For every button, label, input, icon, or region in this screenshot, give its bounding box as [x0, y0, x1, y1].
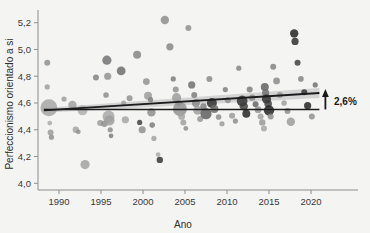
data-point — [139, 126, 146, 133]
data-point — [291, 38, 298, 45]
data-point — [229, 113, 235, 119]
x-tick-label: 1995 — [90, 196, 111, 207]
y-tick-label: 4,6 — [18, 97, 31, 108]
data-point — [49, 135, 54, 140]
data-point — [76, 129, 81, 134]
data-point — [188, 81, 195, 88]
data-point — [148, 97, 153, 102]
data-point — [143, 78, 150, 85]
x-tick-label: 2005 — [174, 196, 195, 207]
x-axis-title: Ano — [174, 219, 192, 230]
y-tick-label: 4,0 — [18, 178, 31, 189]
data-point — [298, 76, 304, 82]
data-point — [157, 157, 163, 163]
x-tick-label: 1990 — [48, 196, 69, 207]
x-tick-label: 2010 — [216, 196, 237, 207]
data-point — [122, 116, 129, 123]
data-point — [216, 114, 222, 120]
data-point — [270, 64, 276, 70]
y-tick-label: 5,2 — [18, 17, 31, 28]
data-point — [103, 92, 109, 98]
data-point — [259, 119, 265, 125]
increase-label: 2,6% — [334, 96, 357, 107]
chart-figure: 4,04,24,44,64,85,05,21990199520002005201… — [0, 0, 370, 233]
data-point — [273, 78, 280, 85]
data-point — [156, 152, 161, 157]
data-point — [313, 82, 318, 87]
x-tick-label: 2015 — [258, 196, 279, 207]
y-tick-label: 4,8 — [18, 71, 31, 82]
data-point — [247, 87, 253, 93]
data-point — [151, 136, 156, 141]
data-point — [261, 125, 267, 131]
data-point — [185, 25, 191, 31]
data-point — [287, 118, 295, 126]
data-point — [166, 43, 173, 50]
data-point — [104, 115, 114, 125]
data-point — [223, 87, 228, 92]
scatter-plot: 4,04,24,44,64,85,05,21990199520002005201… — [0, 0, 370, 233]
data-point — [48, 129, 54, 135]
data-point — [309, 113, 315, 119]
data-point — [178, 113, 185, 120]
x-tick-label: 2020 — [300, 196, 321, 207]
data-point — [127, 95, 133, 101]
data-point — [108, 127, 113, 132]
data-point — [45, 84, 50, 89]
data-point — [93, 75, 99, 81]
y-tick-label: 4,4 — [18, 124, 31, 135]
data-point — [290, 29, 298, 37]
data-point — [104, 73, 111, 80]
data-point — [161, 16, 169, 24]
data-point — [268, 113, 274, 119]
data-point — [242, 110, 250, 118]
data-point — [40, 99, 57, 116]
y-tick-label: 4,2 — [18, 151, 31, 162]
y-axis-title: Perfeccionismo orientado a si — [4, 38, 15, 169]
x-tick-label: 2000 — [132, 196, 153, 207]
data-point — [171, 76, 176, 81]
data-point — [61, 96, 66, 101]
data-point — [133, 51, 141, 59]
data-point — [304, 102, 311, 109]
data-point — [295, 60, 301, 66]
data-point — [137, 120, 142, 125]
data-point — [109, 133, 114, 138]
data-point — [173, 87, 179, 93]
data-point — [180, 119, 186, 125]
data-point — [149, 122, 155, 128]
data-point — [47, 121, 52, 126]
data-point — [236, 66, 241, 71]
data-point — [206, 76, 212, 82]
data-point — [258, 113, 264, 119]
y-tick-label: 5,0 — [18, 44, 31, 55]
data-point — [102, 56, 111, 65]
data-point — [219, 121, 224, 126]
data-point — [117, 66, 126, 75]
data-point — [281, 100, 287, 106]
data-point — [44, 60, 50, 66]
data-point — [233, 118, 238, 123]
data-point — [183, 126, 188, 131]
data-point — [80, 160, 89, 169]
data-point — [191, 92, 197, 98]
